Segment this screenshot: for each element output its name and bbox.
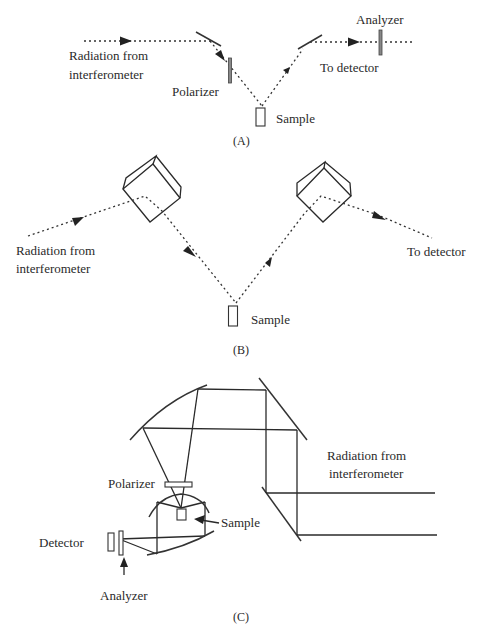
- flat-mirror-lower: [262, 487, 301, 541]
- ray-arrow-icon: [215, 50, 225, 61]
- ray-arrow-icon: [348, 38, 360, 47]
- label-detector: To detector: [320, 60, 379, 75]
- label-source-line1: Radiation from: [69, 48, 148, 63]
- analyzer: [119, 531, 123, 555]
- label-source-line2: interferometer: [329, 466, 404, 481]
- caption-c: (C): [233, 610, 249, 624]
- detector: [108, 533, 114, 551]
- polarizer: [229, 58, 232, 83]
- sample: [177, 509, 186, 520]
- prism-right: [297, 162, 351, 222]
- panel-b: Radiation from interferometer Sample To …: [16, 156, 466, 357]
- sample: [256, 108, 265, 126]
- label-source-line2: interferometer: [69, 67, 144, 82]
- analyzer: [379, 30, 382, 55]
- ray-arrow-icon: [183, 246, 196, 257]
- label-sample: Sample: [221, 515, 260, 530]
- caption-b: (B): [233, 343, 249, 357]
- label-source-line2: interferometer: [16, 261, 91, 276]
- panel-c: Radiation from interferometer Polarizer …: [39, 378, 437, 624]
- label-analyzer: Analyzer: [100, 588, 148, 603]
- flat-mirror-1: [196, 32, 221, 46]
- label-source-line1: Radiation from: [16, 243, 95, 258]
- ray-arrow-icon: [120, 37, 132, 46]
- pointer-arrow-icon: [120, 557, 128, 567]
- reflected-ray: [262, 49, 303, 106]
- label-detector: Detector: [39, 535, 84, 550]
- pointer-arrow-icon: [194, 515, 205, 524]
- label-polarizer: Polarizer: [172, 84, 220, 99]
- label-detector: To detector: [407, 244, 466, 259]
- polarizer: [165, 482, 192, 487]
- ray-arrow-icon: [372, 211, 386, 220]
- optical-diagram-figure: Radiation from interferometer Polarizer …: [0, 0, 483, 629]
- ray-arrow-icon: [72, 217, 84, 226]
- ray-arrow-icon: [265, 257, 272, 267]
- label-polarizer: Polarizer: [108, 476, 156, 491]
- panel-a: Radiation from interferometer Polarizer …: [69, 12, 415, 148]
- curved-mirror: [130, 385, 207, 440]
- prism-left: [123, 156, 181, 222]
- label-source-line1: Radiation from: [327, 448, 406, 463]
- caption-a: (A): [233, 134, 250, 148]
- sample: [229, 306, 238, 326]
- label-sample: Sample: [251, 312, 290, 327]
- label-sample: Sample: [276, 111, 315, 126]
- label-analyzer: Analyzer: [356, 12, 404, 27]
